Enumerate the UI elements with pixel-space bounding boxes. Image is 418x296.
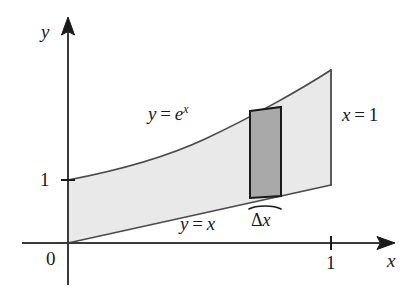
y-axis-label: y bbox=[41, 22, 49, 41]
delta-x-brace-icon bbox=[249, 206, 281, 209]
right-boundary-label: x = 1 bbox=[342, 105, 378, 124]
figure-canvas bbox=[0, 0, 418, 296]
y-axis-tick-label-1: 1 bbox=[40, 170, 50, 189]
upper-curve-label: y = ex bbox=[148, 104, 188, 123]
delta-x-label: Δx bbox=[251, 211, 271, 229]
x-axis-tick-label-1: 1 bbox=[326, 253, 336, 272]
lower-curve-label: y = x bbox=[180, 214, 215, 233]
origin-label: 0 bbox=[46, 249, 56, 268]
figure-region-between-curves: y x 0 1 1 y = ex y = x x = 1 Δx bbox=[0, 0, 418, 296]
x-axis-label: x bbox=[387, 251, 395, 270]
representative-rectangle-strip bbox=[250, 107, 281, 198]
